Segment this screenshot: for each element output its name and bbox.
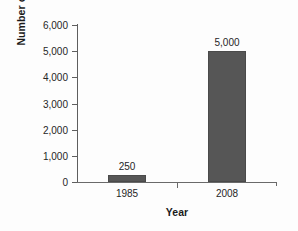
y-tick-label: 5,000 bbox=[0, 46, 68, 57]
y-tick-label: 1,000 bbox=[0, 150, 68, 161]
bar-value-label: 250 bbox=[97, 161, 157, 172]
y-tick-label: 6,000 bbox=[0, 20, 68, 31]
y-tick-label: 3,000 bbox=[0, 98, 68, 109]
chart-figure: Number of Courses 01,0002,0003,0004,0005… bbox=[0, 0, 298, 231]
x-axis-end-tick bbox=[276, 182, 277, 186]
x-tick-label: 2008 bbox=[197, 188, 257, 199]
y-tick-label: 4,000 bbox=[0, 72, 68, 83]
y-tick-label: 2,000 bbox=[0, 124, 68, 135]
bar bbox=[108, 175, 146, 182]
x-axis-title: Year bbox=[77, 206, 277, 218]
x-tick-label: 1985 bbox=[97, 188, 157, 199]
plot-area bbox=[77, 25, 277, 182]
bar bbox=[208, 51, 246, 182]
x-axis-mid-tick bbox=[177, 183, 178, 188]
y-axis-tick bbox=[72, 182, 77, 183]
bar-value-label: 5,000 bbox=[197, 37, 257, 48]
y-tick-label: 0 bbox=[0, 177, 68, 188]
